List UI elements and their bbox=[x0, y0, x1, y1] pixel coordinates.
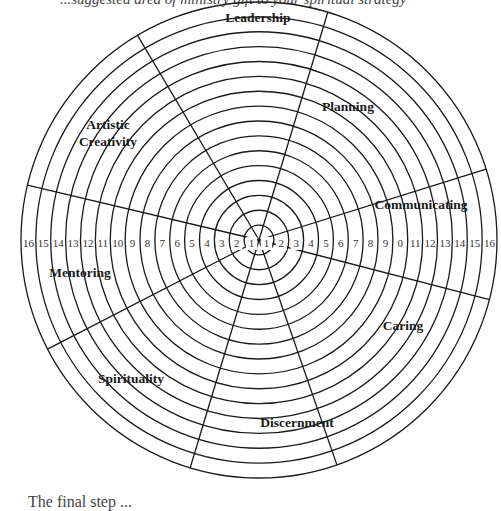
spoke-6 bbox=[48, 240, 260, 349]
ring-number-right: 0 bbox=[398, 237, 404, 249]
ring-number-left: 2 bbox=[234, 237, 240, 249]
ring-number-left: 5 bbox=[189, 237, 195, 249]
ring-number-left: 4 bbox=[204, 237, 210, 249]
ring-number-right: 6 bbox=[338, 237, 344, 249]
ring-number-right: 13 bbox=[439, 237, 451, 249]
ring-number-left: 16 bbox=[23, 237, 35, 249]
segment-label-communicating: Communicating bbox=[374, 197, 467, 212]
segment-label-leadership: Leadership bbox=[225, 10, 290, 25]
ring-number-right: 5 bbox=[323, 237, 329, 249]
segment-label-mentoring: Mentoring bbox=[49, 265, 111, 280]
segment-label-spirituality: Spirituality bbox=[98, 371, 164, 386]
ring-number-left: 15 bbox=[38, 237, 50, 249]
ring-number-right: 7 bbox=[353, 237, 359, 249]
ring-number-right: 4 bbox=[308, 237, 314, 249]
ring-number-left: 3 bbox=[219, 237, 225, 249]
ring-number-left: 13 bbox=[68, 237, 80, 249]
ring-number-right: 1 bbox=[264, 237, 270, 249]
ring-number-right: 11 bbox=[410, 237, 421, 249]
ring-number-left: 7 bbox=[160, 237, 166, 249]
ring-number-right: 9 bbox=[383, 237, 389, 249]
ring-number-right: 8 bbox=[368, 237, 374, 249]
segment-label-planning: Planning bbox=[322, 99, 374, 114]
ring-number-right: 12 bbox=[425, 237, 436, 249]
ring-number-right: 14 bbox=[454, 237, 466, 249]
ring-number-left: 14 bbox=[53, 237, 65, 249]
ring-number-left: 11 bbox=[98, 237, 109, 249]
ring-number-right: 3 bbox=[293, 237, 299, 249]
ring-number-left: 12 bbox=[82, 237, 93, 249]
footer-cut-off-text: The final step ... bbox=[28, 493, 132, 511]
ring-number-left: 8 bbox=[145, 237, 151, 249]
ring-number-right: 15 bbox=[469, 237, 481, 249]
ring-number-right: 2 bbox=[279, 237, 285, 249]
ring-number-right: 16 bbox=[484, 237, 496, 249]
segment-label-artistic: Artistic bbox=[86, 117, 129, 132]
segment-label-discernment: Discernment bbox=[260, 415, 334, 430]
ring-number-left: 6 bbox=[174, 237, 180, 249]
ring-number-left: 10 bbox=[112, 237, 124, 249]
segment-label-caring: Caring bbox=[383, 318, 424, 333]
ring-number-left: 1 bbox=[249, 237, 255, 249]
segment-label-creativity: Creativity bbox=[79, 134, 137, 149]
ring-number-left: 9 bbox=[130, 237, 136, 249]
